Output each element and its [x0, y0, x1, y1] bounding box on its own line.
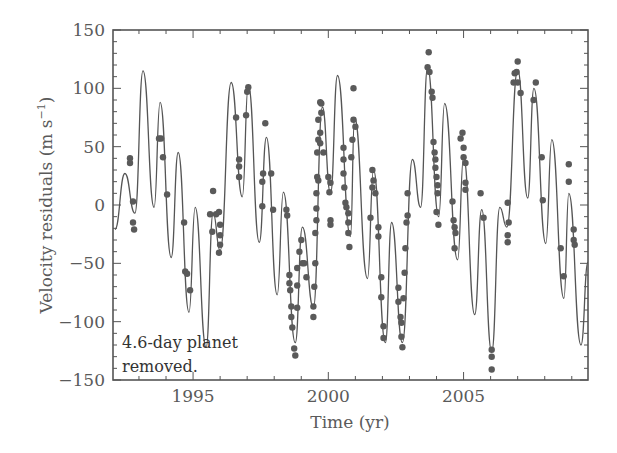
data-point	[288, 314, 294, 320]
data-point	[489, 347, 495, 353]
data-point	[313, 190, 319, 196]
data-point	[262, 120, 268, 126]
x-axis-tick-labels: 199520002005	[171, 386, 485, 406]
data-point	[566, 179, 572, 185]
data-point	[435, 222, 441, 228]
data-point	[432, 156, 438, 162]
data-point	[317, 99, 323, 105]
data-point	[340, 156, 346, 162]
annotation-line-2: removed.	[122, 357, 198, 376]
data-point	[315, 117, 321, 123]
data-point	[160, 154, 166, 160]
y-tick-label: 0	[94, 195, 105, 215]
data-point	[313, 205, 319, 211]
fit-curve-path	[115, 67, 588, 352]
data-point	[318, 110, 324, 116]
x-tick-label: 2000	[307, 386, 350, 406]
data-point	[477, 190, 483, 196]
data-point	[164, 191, 170, 197]
data-point	[292, 352, 298, 358]
data-point	[561, 273, 567, 279]
data-point	[294, 265, 300, 271]
data-point	[426, 69, 432, 75]
data-point	[259, 179, 265, 185]
data-point	[287, 287, 293, 293]
data-point	[310, 314, 316, 320]
data-point	[346, 244, 352, 250]
data-point	[217, 232, 223, 238]
data-point	[260, 170, 266, 176]
data-point	[452, 230, 458, 236]
data-point	[243, 112, 249, 118]
data-point	[286, 280, 292, 286]
data-point	[530, 97, 536, 103]
data-point	[294, 282, 300, 288]
data-point	[367, 215, 373, 221]
data-point	[460, 154, 466, 160]
data-point	[326, 189, 332, 195]
data-point	[158, 135, 164, 141]
x-tick-label: 2005	[442, 386, 485, 406]
data-point	[426, 49, 432, 55]
data-point	[259, 203, 265, 209]
data-point	[288, 303, 294, 309]
data-point	[489, 354, 495, 360]
data-point	[513, 69, 519, 75]
data-point	[130, 219, 136, 225]
data-point	[216, 209, 222, 215]
annotation: 4.6-day planet removed.	[122, 333, 238, 376]
data-point	[310, 303, 316, 309]
data-point	[320, 149, 326, 155]
data-point	[210, 188, 216, 194]
data-point	[244, 89, 250, 95]
data-point	[311, 284, 317, 290]
data-point	[489, 366, 495, 372]
data-point	[375, 224, 381, 230]
data-point	[558, 245, 564, 251]
data-point	[345, 219, 351, 225]
data-point	[404, 212, 410, 218]
data-point	[506, 219, 512, 225]
data-point	[296, 249, 302, 255]
data-point	[460, 145, 466, 151]
data-point	[434, 182, 440, 188]
data-point	[286, 272, 292, 278]
data-point	[399, 344, 405, 350]
data-point	[301, 260, 307, 266]
data-point	[462, 187, 468, 193]
data-point	[312, 260, 318, 266]
data-point	[312, 230, 318, 236]
data-point	[317, 130, 323, 136]
data-point	[270, 207, 276, 213]
data-point	[449, 198, 455, 204]
data-point	[341, 184, 347, 190]
y-tick-label: −50	[69, 253, 105, 273]
data-point	[315, 177, 321, 183]
data-point	[430, 139, 436, 145]
model-curve	[115, 67, 588, 352]
data-point	[429, 95, 435, 101]
y-axis-title-close: )	[36, 97, 56, 104]
data-point	[457, 135, 463, 141]
data-point	[369, 184, 375, 190]
data-point	[480, 215, 486, 221]
y-tick-label: −150	[58, 370, 105, 390]
data-point	[533, 79, 539, 85]
data-point	[236, 174, 242, 180]
data-point	[327, 180, 333, 186]
data-point	[350, 117, 356, 123]
data-point	[505, 200, 511, 206]
data-point	[433, 209, 439, 215]
y-tick-label: 100	[73, 78, 105, 98]
data-point	[345, 210, 351, 216]
data-point	[515, 58, 521, 64]
data-point	[327, 222, 333, 228]
data-point	[505, 239, 511, 245]
data-point	[291, 345, 297, 351]
data-point	[401, 270, 407, 276]
data-point	[462, 180, 468, 186]
data-point	[517, 90, 523, 96]
data-point	[317, 140, 323, 146]
data-point	[207, 211, 213, 217]
data-point	[380, 335, 386, 341]
